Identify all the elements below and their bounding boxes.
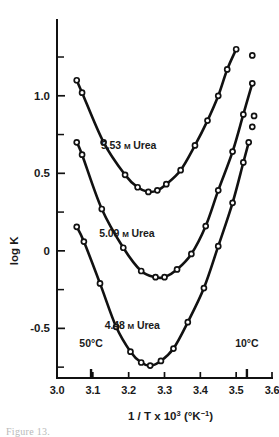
y-axis-title: log K — [8, 236, 20, 265]
y-tick-label: 0 — [44, 245, 50, 257]
temperature-annotation: 10°C — [235, 337, 259, 349]
data-point — [175, 267, 180, 272]
data-point — [128, 349, 133, 354]
data-point — [171, 346, 176, 351]
series-label-2: 4.48 M Urea — [105, 319, 160, 331]
data-point-detached — [250, 124, 255, 129]
data-point — [139, 360, 144, 365]
data-point — [250, 81, 255, 86]
data-point — [155, 188, 160, 193]
data-point — [146, 189, 151, 194]
x-axis-title: 1 / T x 103 (°K−1) — [128, 409, 213, 422]
data-point-detached — [250, 53, 255, 58]
figure-caption: Figure 13. — [6, 426, 50, 437]
data-point — [80, 90, 85, 95]
data-point — [241, 160, 246, 165]
x-tick-label: 3.3 — [157, 384, 172, 396]
series-curve-1 — [77, 83, 253, 278]
data-point — [121, 245, 126, 250]
data-point — [203, 224, 208, 229]
data-point — [205, 118, 210, 123]
data-point — [201, 286, 206, 291]
y-tick-label: -0.5 — [30, 322, 50, 334]
data-point — [99, 206, 104, 211]
data-point — [216, 244, 221, 249]
data-point — [189, 251, 194, 256]
data-point — [225, 67, 230, 72]
chart-text-labels: 3.03.13.23.33.43.53.61.00.50-0.550°C10°C… — [8, 90, 279, 422]
y-tick-label: 0.5 — [34, 167, 51, 179]
data-point — [123, 172, 128, 177]
data-point — [148, 363, 153, 368]
data-point — [230, 149, 235, 154]
data-point — [74, 224, 79, 229]
data-point — [234, 47, 239, 52]
data-point — [98, 281, 103, 286]
data-point — [135, 185, 140, 190]
data-point — [74, 140, 79, 145]
data-point-detached — [252, 113, 257, 118]
data-point — [230, 200, 235, 205]
x-tick-label: 3.2 — [121, 384, 136, 396]
data-point — [246, 140, 251, 145]
series-label-0: 5.53 M Urea — [101, 139, 156, 151]
x-tick-label: 3.5 — [229, 384, 244, 396]
data-point — [216, 93, 221, 98]
data-point — [81, 239, 86, 244]
y-tick-label: 1.0 — [34, 90, 50, 102]
data-point — [216, 188, 221, 193]
data-point — [162, 275, 167, 280]
temperature-annotation: 50°C — [79, 337, 103, 349]
x-tick-label: 3.6 — [265, 384, 279, 396]
axes — [57, 20, 272, 378]
x-tick-label: 3.4 — [193, 384, 209, 396]
data-point — [185, 320, 190, 325]
x-tick-label: 3.1 — [85, 384, 100, 396]
data-point — [164, 182, 169, 187]
data-point — [80, 152, 85, 157]
data-point — [192, 143, 197, 148]
data-point — [241, 112, 246, 117]
series-curve-0 — [77, 49, 236, 192]
data-point — [178, 168, 183, 173]
data-point — [153, 275, 158, 280]
data-point-markers — [74, 47, 256, 368]
series-label-1: 5.09 M Urea — [99, 227, 154, 239]
x-tick-label: 3.0 — [50, 384, 65, 396]
data-point — [139, 269, 144, 274]
data-point — [74, 78, 79, 83]
data-point — [158, 358, 163, 363]
